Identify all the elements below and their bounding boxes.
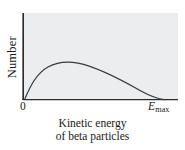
beta-decay-spectrum-figure: Number 0 Emax Kinetic energy of beta par… bbox=[0, 0, 185, 150]
x-axis-tick-label-emax: Emax bbox=[148, 101, 169, 113]
emax-subscript: max bbox=[155, 105, 169, 114]
emax-symbol: E bbox=[148, 100, 155, 112]
x-axis-tick-label-zero: 0 bbox=[20, 101, 26, 113]
caption-line-2: of beta particles bbox=[0, 130, 185, 143]
beta-spectrum-curve bbox=[25, 62, 165, 100]
x-axis-caption: Kinetic energy of beta particles bbox=[0, 117, 185, 143]
caption-line-1: Kinetic energy bbox=[0, 117, 185, 130]
y-axis-title: Number bbox=[6, 26, 19, 88]
